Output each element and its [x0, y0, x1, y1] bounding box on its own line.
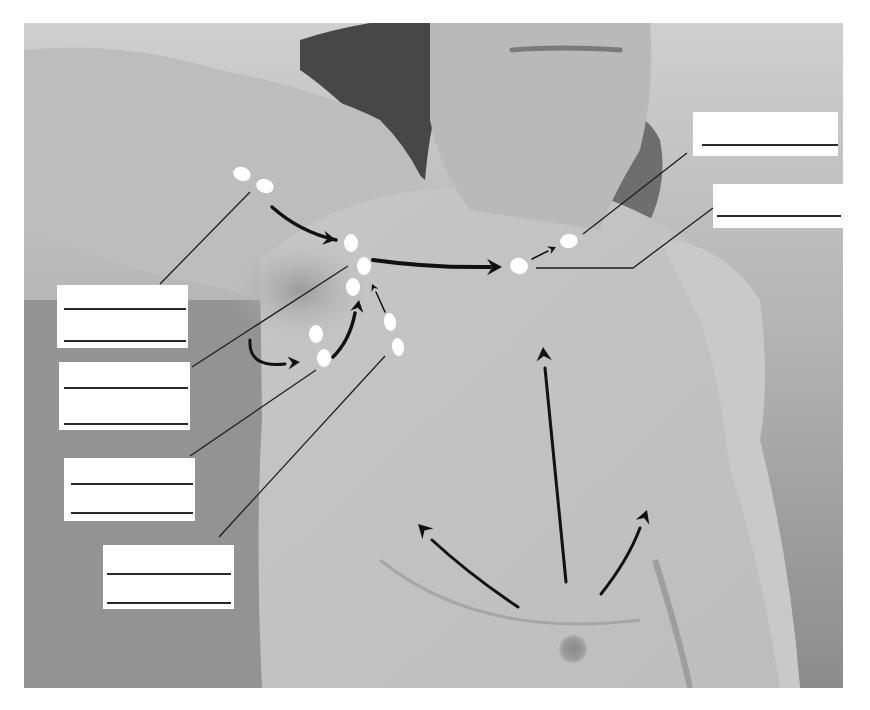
label-supraclavicular[interactable]	[693, 112, 838, 156]
answer-line	[717, 215, 841, 217]
answer-line	[64, 340, 186, 342]
answer-line	[107, 573, 231, 575]
lymph-node-central-1	[344, 234, 358, 252]
answer-line	[64, 387, 188, 389]
label-central[interactable]	[59, 362, 190, 430]
answer-line	[702, 144, 838, 146]
lymph-node-central-3	[346, 278, 360, 296]
answer-line	[64, 308, 186, 310]
label-subscapular[interactable]	[64, 458, 195, 521]
label-pectoral[interactable]	[103, 545, 234, 609]
label-apical[interactable]	[713, 184, 843, 228]
answer-line	[71, 512, 193, 514]
answer-line	[71, 483, 193, 485]
answer-line	[107, 602, 231, 604]
lymph-node-central-2	[357, 257, 371, 275]
label-lateral[interactable]	[57, 285, 188, 348]
lymph-node-subscapular-2	[317, 349, 331, 367]
answer-line	[64, 423, 188, 425]
nipple	[559, 635, 587, 663]
lymph-node-subscapular-1	[309, 325, 323, 343]
anatomy-figure	[0, 0, 870, 710]
